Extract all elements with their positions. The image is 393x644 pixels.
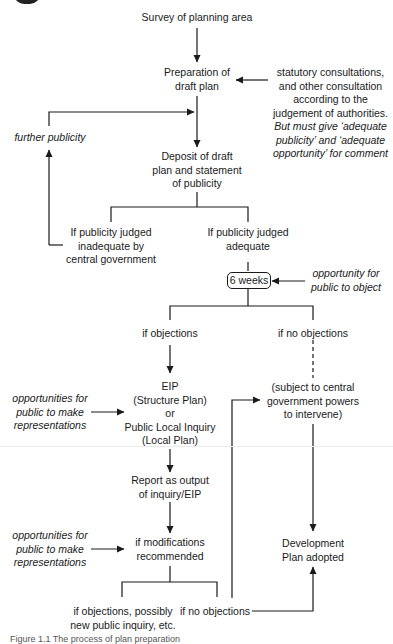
arrow-final-to-adopted (252, 567, 313, 611)
node-opportunity-to-object: opportunity for public to object (306, 267, 386, 294)
branch-weeks (170, 306, 313, 320)
node-representations-2: opportunities for public to make represe… (10, 529, 90, 570)
node-if-objections: if objections (130, 327, 210, 341)
node-central-government-powers: (subject to central government powers to… (262, 381, 364, 422)
node-further-publicity: further publicity (10, 131, 90, 145)
node-six-weeks: 6 weeks (227, 272, 271, 289)
figure-caption: Figure 1.1 The process of plan preparati… (10, 634, 180, 644)
branch-modifications (122, 582, 217, 597)
node-preparation: Preparation of draft plan (150, 66, 244, 93)
node-consultations: statutory consultations, and other consu… (268, 66, 393, 161)
node-representations-1: opportunities for public to make represe… (10, 392, 90, 433)
node-if-no-objections: if no objections (268, 327, 358, 341)
node-final-no-objections: if no objections (180, 605, 250, 619)
arrow-further-publicity-loop (49, 112, 194, 126)
node-publicity-adequate: If publicity judged adequate (200, 226, 296, 253)
node-modifications: if modifications recommended (125, 536, 215, 563)
node-report: Report as output of inquiry/EIP (125, 474, 215, 501)
node-eip-inquiry: EIP (Structure Plan) or Public Local Inq… (115, 380, 225, 448)
node-plan-adopted: Development Plan adopted (273, 537, 353, 564)
node-publicity-inadequate: If publicity judged inadequate by centra… (63, 226, 159, 267)
node-survey: Survey of planning area (140, 11, 254, 25)
node-new-inquiry: if objections, possibly new public inqui… (68, 605, 178, 632)
branch-deposit (111, 207, 248, 222)
arrow-no-objections-to-subject (232, 400, 260, 598)
node-deposit: Deposit of draft plan and statement of p… (140, 150, 254, 191)
